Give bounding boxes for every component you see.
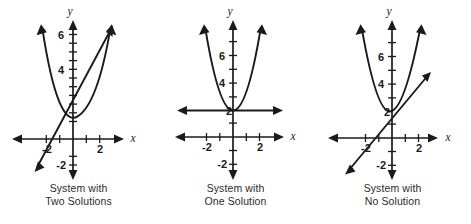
x-axis-label: x xyxy=(444,131,451,143)
caption-line-2: One Solution xyxy=(157,195,314,208)
caption-line-1: System with xyxy=(314,182,471,195)
x-axis-label: x xyxy=(129,132,136,144)
y-ticklabel-4: 4 xyxy=(219,77,226,89)
graph-two-solutions: -2 2 6 4 -2 x y xyxy=(0,0,157,182)
caption-no-solution: System with No Solution xyxy=(314,182,471,208)
linear-curve xyxy=(349,77,427,171)
x-axis xyxy=(12,135,124,144)
y-ticklabel-6: 6 xyxy=(58,29,64,41)
x-axis-label: x xyxy=(289,130,296,142)
y-ticklabel-neg2: -2 xyxy=(56,159,66,171)
graph-one-solution: -2 2 6 4 2 -2 x y xyxy=(157,0,314,182)
x-ticklabel-pos2: 2 xyxy=(97,143,103,155)
caption-one-solution: System with One Solution xyxy=(157,182,314,208)
panel-one-solution: -2 2 6 4 2 -2 x y System with One Soluti… xyxy=(157,0,314,224)
caption-line-2: Two Solutions xyxy=(0,195,157,208)
x-ticklabel-pos2: 2 xyxy=(257,141,263,153)
panel-two-solutions: -2 2 6 4 -2 x y System with Two Solution… xyxy=(0,0,157,224)
caption-line-2: No Solution xyxy=(314,195,471,208)
y-ticklabel-neg2: -2 xyxy=(376,159,386,171)
y-axis-label: y xyxy=(226,5,233,18)
panel-no-solution: -2 2 6 4 2 -2 x y System with No Solutio… xyxy=(314,0,471,224)
x-ticklabel-neg2: -2 xyxy=(202,141,212,153)
three-panel-graph-figure: -2 2 6 4 -2 x y System with Two Solution… xyxy=(0,0,471,224)
y-axis-label: y xyxy=(66,5,73,18)
y-ticklabel-4: 4 xyxy=(378,78,385,90)
y-ticklabel-6: 6 xyxy=(378,51,384,63)
y-axis-label: y xyxy=(385,5,392,18)
y-ticklabel-neg2: -2 xyxy=(217,158,227,170)
caption-line-1: System with xyxy=(0,182,157,195)
caption-line-1: System with xyxy=(157,182,314,195)
x-axis xyxy=(175,133,284,142)
graph-no-solution: -2 2 6 4 2 -2 x y xyxy=(314,0,471,182)
y-ticklabel-6: 6 xyxy=(219,50,225,62)
y-axis xyxy=(229,20,238,180)
y-axis xyxy=(388,20,397,180)
x-ticklabel-pos2: 2 xyxy=(416,142,422,154)
caption-two-solutions: System with Two Solutions xyxy=(0,182,157,208)
y-ticklabel-4: 4 xyxy=(58,64,65,76)
x-ticklabel-neg2: -2 xyxy=(361,142,371,154)
